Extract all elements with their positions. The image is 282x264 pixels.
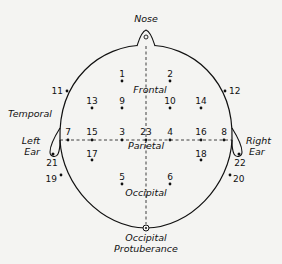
electrode-5-label: 5	[119, 172, 125, 182]
electrode-19-label: 19	[46, 174, 58, 184]
electrode-9-label: 9	[119, 96, 125, 106]
electrode-23-label: 23	[140, 127, 151, 137]
electrode-20-label: 20	[233, 174, 245, 184]
electrode-6-label: 6	[167, 172, 173, 182]
eeg-electrode-diagram: 1 2 9 10 13 14 7 15 3 23 4 16 8 17 18 5 …	[0, 0, 282, 264]
electrode-21-label: 21	[46, 158, 57, 168]
nose-label: Nose	[134, 13, 158, 24]
electrode-1-label: 1	[119, 69, 125, 79]
electrode-11-label: 11	[52, 86, 63, 96]
region-parietal-label: Parietal	[128, 140, 164, 151]
electrode-7-label: 7	[65, 127, 71, 137]
right-ear-dot	[238, 153, 241, 156]
electrode-12-label: 12	[229, 86, 240, 96]
electrode-2-label: 2	[167, 69, 173, 79]
right-ear-label-line2: Ear	[249, 146, 266, 157]
nose-shape	[137, 30, 155, 46]
occipital-protuberance-dot	[145, 227, 147, 229]
electrode-8-label: 8	[221, 127, 227, 137]
region-temporal-label: Temporal	[8, 108, 52, 119]
left-ear-label-line1: Left	[22, 135, 41, 146]
electrode-10-label: 10	[164, 96, 176, 106]
electrode-22-label: 22	[234, 158, 245, 168]
electrode-15-label: 15	[86, 127, 97, 137]
right-ear-label-line1: Right	[246, 135, 272, 146]
left-ear-dot	[52, 153, 55, 156]
electrode-4-label: 4	[167, 127, 173, 137]
electrode-3-label: 3	[119, 127, 125, 137]
region-frontal-label: Frontal	[133, 84, 167, 95]
left-ear-label-line2: Ear	[24, 146, 41, 157]
electrode-13-label: 13	[86, 96, 97, 106]
left-ear-shape	[50, 128, 60, 156]
right-ear-shape	[232, 128, 242, 156]
electrode-16-label: 16	[195, 127, 207, 137]
electrode-14-label: 14	[195, 96, 207, 106]
electrode-18-label: 18	[195, 149, 207, 159]
occipital-protuberance-label-line2: Protuberance	[114, 243, 178, 254]
region-occipital-label: Occipital	[125, 187, 167, 198]
occipital-protuberance-label-line1: Occipital	[125, 232, 167, 243]
electrode-17-label: 17	[86, 149, 97, 159]
